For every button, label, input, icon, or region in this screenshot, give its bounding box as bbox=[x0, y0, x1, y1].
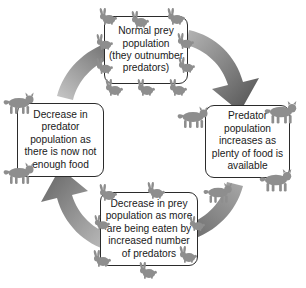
node-normal-prey: Normal prey population (they outnumber p… bbox=[104, 16, 188, 84]
node-predator-decrease-label: Decrease in predator population as there… bbox=[22, 109, 100, 171]
node-predator-decrease: Decrease in predator population as there… bbox=[17, 103, 104, 177]
predator-prey-cycle-diagram: Normal prey population (they outnumber p… bbox=[0, 0, 306, 288]
node-predator-increase: Predator population increases as plenty … bbox=[205, 105, 290, 178]
node-normal-prey-label: Normal prey population (they outnumber p… bbox=[106, 25, 186, 75]
arrow-top-right bbox=[186, 30, 259, 112]
node-prey-decrease: Decrease in prey population as more are … bbox=[100, 192, 198, 266]
node-prey-decrease-label: Decrease in prey population as more are … bbox=[103, 198, 196, 260]
node-predator-increase-label: Predator population increases as plenty … bbox=[209, 110, 286, 172]
